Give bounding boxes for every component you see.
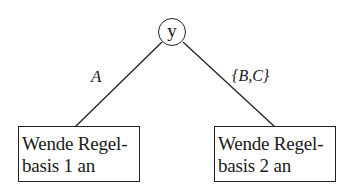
edge-label-right: {B,C}: [232, 68, 269, 84]
root-node-label: y: [167, 21, 177, 40]
leaf-node-left: Wende Regel- basis 1 an: [18, 126, 140, 182]
leaf-left-line2: basis 1 an: [22, 155, 139, 177]
edge-right: [183, 42, 275, 127]
edge-label-left: A: [91, 68, 101, 85]
leaf-right-line2: basis 2 an: [218, 155, 335, 177]
edge-left: [75, 42, 162, 127]
leaf-left-line1: Wende Regel-: [22, 133, 139, 155]
leaf-right-line1: Wende Regel-: [218, 133, 335, 155]
leaf-node-right: Wende Regel- basis 2 an: [214, 126, 336, 182]
root-node: y: [158, 18, 186, 46]
